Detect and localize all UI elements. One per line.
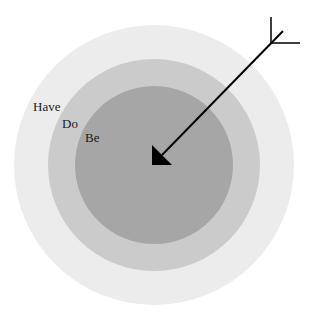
- label-do: Do: [62, 117, 78, 130]
- label-have: Have: [33, 100, 60, 113]
- label-be: Be: [85, 131, 99, 144]
- target-diagram-graphic: [0, 0, 317, 328]
- target-diagram: Have Do Be: [0, 0, 317, 328]
